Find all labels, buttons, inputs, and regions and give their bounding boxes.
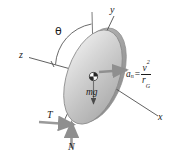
denominator-subscript: G [146, 83, 150, 89]
axis-label-y: y [110, 5, 114, 15]
fraction-denominator: rG [141, 74, 151, 86]
force-label-normal: N [68, 142, 75, 152]
tension-arrow [39, 122, 74, 125]
angle-label-theta: θ [55, 26, 62, 37]
axis-label-x: x [158, 112, 162, 122]
force-label-weight: mg [86, 88, 98, 98]
equals-sign: = [135, 70, 140, 80]
fraction: v2 rG [141, 62, 151, 87]
acceleration-equation: an= v2 rG [126, 62, 151, 87]
numerator-exponent: 2 [147, 59, 150, 65]
force-label-tension: T [47, 110, 53, 120]
accel-subscript: n [131, 73, 134, 79]
axis-label-z: z [19, 50, 23, 60]
figure-canvas [0, 0, 180, 158]
fraction-numerator: v2 [142, 62, 151, 74]
physics-figure: z y x θ mg T N an= v2 rG [0, 0, 180, 158]
